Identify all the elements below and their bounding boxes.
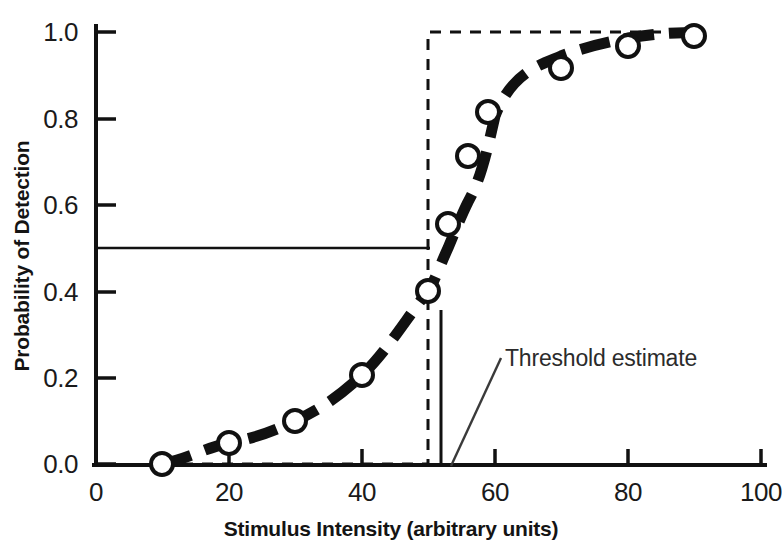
- threshold-estimate-label: Threshold estimate: [505, 345, 697, 372]
- x-tick-label-100: 100: [740, 477, 782, 508]
- data-point: [617, 35, 639, 57]
- data-point: [218, 432, 240, 454]
- data-point: [351, 364, 373, 386]
- x-tick-label-0: 0: [89, 477, 103, 508]
- psychometric-function-chart: 1.0 0.8 0.6 0.4 0.2 0.0 0 20 40 60 80 10…: [0, 0, 782, 547]
- data-point: [683, 25, 705, 47]
- y-tick-label-1.0: 1.0: [0, 17, 78, 48]
- x-tick-label-60: 60: [481, 477, 509, 508]
- y-tick-label-0.8: 0.8: [0, 104, 78, 135]
- x-tick-label-80: 80: [614, 477, 642, 508]
- plot-area: [0, 0, 782, 547]
- x-axis-title: Stimulus Intensity (arbitrary units): [224, 517, 559, 541]
- y-tick-label-0.0: 0.0: [0, 449, 78, 480]
- x-tick-label-40: 40: [348, 477, 376, 508]
- data-point: [284, 410, 306, 432]
- data-point: [417, 280, 439, 302]
- data-point: [457, 145, 479, 167]
- data-point: [550, 57, 572, 79]
- data-point: [437, 213, 459, 235]
- y-axis-title: Probability of Detection: [10, 141, 34, 372]
- data-point: [477, 101, 499, 123]
- data-point: [151, 453, 173, 475]
- x-tick-label-20: 20: [215, 477, 243, 508]
